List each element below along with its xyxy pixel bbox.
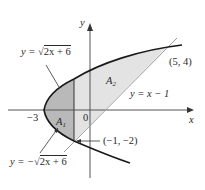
point-label-5-4: (5, 4) xyxy=(169,57,192,68)
y-axis-label: y xyxy=(80,18,85,29)
region-a1-subscript: 1 xyxy=(62,121,66,129)
upper-curve-prefix: y = xyxy=(21,46,38,57)
sqrt-icon: √ xyxy=(38,46,44,57)
sqrt-icon: √ xyxy=(34,156,40,167)
upper-curve-label: y = √2x + 6 xyxy=(21,47,71,58)
leader-upper-curve xyxy=(46,65,59,87)
tick-label-neg3: −3 xyxy=(27,113,38,124)
region-a1-label: A1 xyxy=(56,117,66,129)
lower-curve-label: y = −√2x + 6 xyxy=(10,157,67,168)
line-label: y = x − 1 xyxy=(130,89,169,100)
lower-curve-prefix: y = − xyxy=(10,156,34,167)
lower-curve-radicand: 2x + 6 xyxy=(40,155,67,167)
origin-label: 0 xyxy=(83,113,88,124)
region-a2-label: A2 xyxy=(106,76,116,88)
point-label-neg1-neg2: (−1, −2) xyxy=(103,136,138,147)
upper-curve-radicand: 2x + 6 xyxy=(44,45,71,57)
area-between-curves-diagram: y x 0 −3 y = √2x + 6 y = −√2x + 6 y = x … xyxy=(0,0,205,190)
region-a2-subscript: 2 xyxy=(112,80,116,88)
y-axis-arrow-icon xyxy=(87,23,93,31)
x-axis-label: x xyxy=(189,115,194,126)
x-axis-arrow-icon xyxy=(187,107,194,113)
